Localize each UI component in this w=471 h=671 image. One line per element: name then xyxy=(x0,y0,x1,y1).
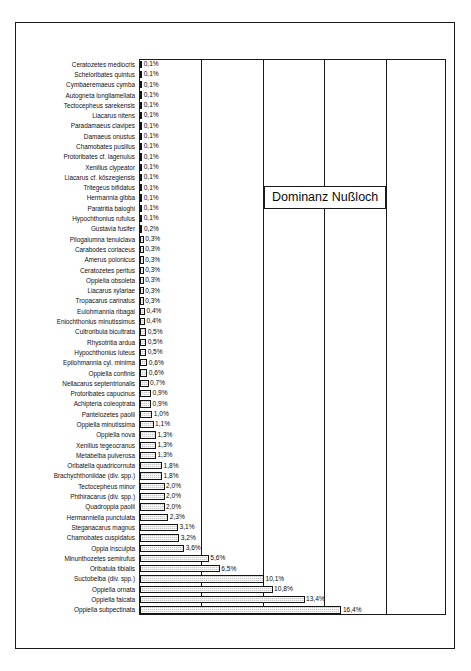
bar-track: 0,4% xyxy=(139,316,446,326)
bar-value-label: 0,6% xyxy=(149,359,164,367)
species-label: Protoribates capucinus xyxy=(16,390,135,397)
chart-row: Nellacarus septentrionalis0,7% xyxy=(16,378,456,388)
chart-row: Phthiracarus (div. spp.)2,0% xyxy=(16,491,456,501)
species-label: Achipteria coleoptrata xyxy=(16,400,135,407)
species-label: Eulohmannia ribagai xyxy=(16,308,135,315)
bar-track: 0,6% xyxy=(139,368,446,378)
chart-row: Hermanniella punctulata2,3% xyxy=(16,512,456,522)
bar xyxy=(140,586,273,593)
bar-value-label: 0,1% xyxy=(144,163,159,171)
bar xyxy=(140,164,142,171)
bar-track: 0,3% xyxy=(139,244,446,254)
species-label: Tropacarus carinatus xyxy=(16,297,135,304)
chart-row: Scheloribates quintus0,1% xyxy=(16,69,456,79)
chart-row: Liacarus cf. kőszegiensis0,1% xyxy=(16,172,456,182)
chart-row: Suctobelba (div. spp.)10,1% xyxy=(16,574,456,584)
chart-title-box: Dominanz Nußloch xyxy=(264,186,386,209)
bar-track: 10,8% xyxy=(139,584,446,594)
bar-value-label: 0,1% xyxy=(144,173,159,181)
chart-row: Oppia insculpta3,6% xyxy=(16,543,456,553)
species-label: Cymbaeremaeus cymba xyxy=(16,81,135,88)
chart-row: Carabodes coriaceus0,3% xyxy=(16,244,456,254)
chart-row: Rhysotritia ardua0,5% xyxy=(16,337,456,347)
bar-value-label: 10,8% xyxy=(274,585,293,593)
species-label: Damaeus onustus xyxy=(16,133,135,140)
bar-track: 0,1% xyxy=(139,152,446,162)
chart-row: Cymbaeremaeus cymba0,1% xyxy=(16,80,456,90)
bar xyxy=(140,472,162,479)
bar-value-label: 0,1% xyxy=(144,101,159,109)
bar-value-label: 1,1% xyxy=(155,420,170,428)
bar-track: 0,9% xyxy=(139,399,446,409)
bar xyxy=(140,112,142,119)
bar-track: 0,1% xyxy=(139,131,446,141)
bar xyxy=(140,287,144,294)
bar-track: 6,5% xyxy=(139,564,446,574)
bar-value-label: 2,0% xyxy=(166,482,181,490)
chart-row: Liacarus nitens0,1% xyxy=(16,110,456,120)
bar-track: 0,3% xyxy=(139,265,446,275)
bar xyxy=(140,390,151,397)
chart-row: Eulohmannia ribagai0,4% xyxy=(16,306,456,316)
species-label: Xenillus clypeator xyxy=(16,164,135,171)
chart-row: Tropacarus carinatus0,3% xyxy=(16,296,456,306)
bar xyxy=(140,431,156,438)
species-label: Tritegeus bifidatus xyxy=(16,184,135,191)
chart-row: Cultroribula bicultrata0,5% xyxy=(16,327,456,337)
bar-value-label: 0,3% xyxy=(145,276,160,284)
bar-value-label: 0,9% xyxy=(153,400,168,408)
bar xyxy=(140,318,145,325)
bar xyxy=(140,442,156,449)
bar xyxy=(140,534,179,541)
bar-track: 1,1% xyxy=(139,419,446,429)
bar-value-label: 0,3% xyxy=(145,297,160,305)
chart-row: Xenillus tegeocranus1,3% xyxy=(16,440,456,450)
bar-track: 0,7% xyxy=(139,378,446,388)
chart-row: Hypochthonius rufulus0,1% xyxy=(16,213,456,223)
bar-value-label: 1,8% xyxy=(164,462,179,470)
bar-value-label: 0,9% xyxy=(153,389,168,397)
species-label: Hermanniella punctulata xyxy=(16,514,135,521)
bar xyxy=(140,380,149,387)
dominance-bar-chart: Ceratozetes mediocris0,1%Scheloribates q… xyxy=(16,23,456,650)
species-label: Ceratozetes peritus xyxy=(16,267,135,274)
bar-track: 3,1% xyxy=(139,522,446,532)
bar-track: 0,1% xyxy=(139,213,446,223)
bar xyxy=(140,411,152,418)
bar xyxy=(140,61,142,68)
bar-value-label: 0,1% xyxy=(144,60,159,68)
chart-row: Oribatella quadricornuta1,8% xyxy=(16,461,456,471)
bar-track: 1,8% xyxy=(139,471,446,481)
species-label: Epilohmannia cyl. minima xyxy=(16,359,135,366)
chart-row: Achipteria coleoptrata0,9% xyxy=(16,399,456,409)
bar-value-label: 5,6% xyxy=(210,554,225,562)
bar xyxy=(140,297,144,304)
chart-row: Steganacarus magnus3,1% xyxy=(16,522,456,532)
bar xyxy=(140,122,142,129)
bar-track: 13,4% xyxy=(139,594,446,604)
chart-row: Paradamaeus clavipes0,1% xyxy=(16,121,456,131)
bar xyxy=(140,153,142,160)
species-label: Nellacarus septentrionalis xyxy=(16,380,135,387)
bar-value-label: 0,4% xyxy=(146,317,161,325)
bar xyxy=(140,452,156,459)
bar-track: 0,4% xyxy=(139,306,446,316)
bar-value-label: 0,1% xyxy=(144,214,159,222)
bar-value-label: 0,3% xyxy=(145,256,160,264)
bar-track: 3,2% xyxy=(139,533,446,543)
chart-row: Ceratozetes peritus0,3% xyxy=(16,265,456,275)
bar xyxy=(140,225,142,232)
chart-row: Ceratozetes mediocris0,1% xyxy=(16,59,456,69)
species-label: Rhysotritia ardua xyxy=(16,339,135,346)
bar xyxy=(140,483,165,490)
bar-track: 1,3% xyxy=(139,440,446,450)
species-label: Liacarus cf. kőszegiensis xyxy=(16,174,135,181)
species-label: Tectocepheus minor xyxy=(16,483,135,490)
bar-track: 3,6% xyxy=(139,543,446,553)
species-label: Pantelozetes paolii xyxy=(16,411,135,418)
chart-row: Hermannia gibba0,1% xyxy=(16,193,456,203)
species-label: Steganacarus magnus xyxy=(16,524,135,531)
bar-value-label: 0,1% xyxy=(144,81,159,89)
bar xyxy=(140,256,144,263)
bar xyxy=(140,606,341,613)
